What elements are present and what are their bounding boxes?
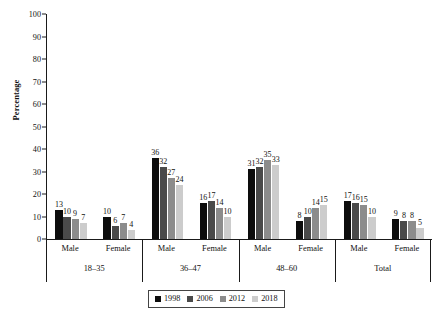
bar xyxy=(296,221,303,239)
bar xyxy=(392,219,399,239)
category-separator xyxy=(142,240,143,282)
legend-label: 2018 xyxy=(261,295,277,303)
bar xyxy=(176,185,183,239)
chart-legend: 1998200620122018 xyxy=(148,290,285,308)
y-axis-tick xyxy=(42,81,46,82)
y-axis-tick-label: 20 xyxy=(0,190,41,199)
legend-swatch-icon xyxy=(252,296,258,302)
y-axis-tick-label: 50 xyxy=(0,122,41,131)
category-sex-label: Male xyxy=(335,242,383,255)
y-axis-tick-label: 40 xyxy=(0,145,41,154)
bar xyxy=(128,230,135,239)
legend-item[interactable]: 2012 xyxy=(220,295,245,303)
legend-item[interactable]: 2006 xyxy=(187,295,212,303)
category-sex-label: Female xyxy=(94,242,142,255)
y-axis-tick xyxy=(42,171,46,172)
bar xyxy=(264,160,271,239)
y-axis-tick-label: 30 xyxy=(0,167,41,176)
y-axis-tick-label: 0 xyxy=(0,235,41,244)
bar xyxy=(160,167,167,239)
bar xyxy=(256,167,263,239)
bar xyxy=(400,221,407,239)
y-axis-tick xyxy=(42,59,46,60)
category-separator xyxy=(239,240,240,282)
category-sex-label: Female xyxy=(383,242,431,255)
bar xyxy=(168,178,175,239)
legend-label: 1998 xyxy=(164,295,180,303)
bar-value-label: 15 xyxy=(316,195,331,204)
bar xyxy=(344,201,351,239)
category-group-label: Total xyxy=(335,262,431,275)
bar xyxy=(63,217,70,240)
y-axis-tick-label: 70 xyxy=(0,77,41,86)
category-sex-label: Female xyxy=(287,242,335,255)
bar xyxy=(200,203,207,239)
y-axis-tick xyxy=(42,149,46,150)
bar-value-label: 4 xyxy=(124,220,139,229)
category-group-label: 48–60 xyxy=(239,262,335,275)
y-axis-tick xyxy=(42,104,46,105)
legend-swatch-icon xyxy=(220,296,226,302)
bar xyxy=(352,203,359,239)
bar xyxy=(304,217,311,240)
bar-value-label: 36 xyxy=(148,148,163,157)
y-axis-tick-label: 90 xyxy=(0,32,41,41)
bar-value-label: 5 xyxy=(412,218,427,227)
bar-chart: Percentage 0102030405060708090100 131097… xyxy=(0,0,444,321)
bar-value-label: 32 xyxy=(156,157,171,166)
bar xyxy=(80,223,87,239)
y-axis-tick-label: 100 xyxy=(0,10,41,19)
category-separator xyxy=(335,240,336,282)
legend-label: 2012 xyxy=(229,295,245,303)
y-axis-tick xyxy=(42,14,46,15)
category-separator xyxy=(430,240,431,282)
category-axis: MaleFemaleMaleFemaleMaleFemaleMaleFemale… xyxy=(46,240,432,282)
y-axis-tick xyxy=(42,216,46,217)
bar-value-label: 10 xyxy=(364,207,379,216)
plot-area: 1310971067436322724161714103132353381014… xyxy=(47,14,432,239)
bar xyxy=(416,228,423,239)
bar-value-label: 10 xyxy=(99,207,114,216)
y-axis-tick-label: 80 xyxy=(0,55,41,64)
bar-value-label: 10 xyxy=(220,207,235,216)
y-axis-tick-label: 10 xyxy=(0,212,41,221)
bar xyxy=(152,158,159,239)
bar xyxy=(312,208,319,240)
category-sex-label: Male xyxy=(239,242,287,255)
bar-value-label: 7 xyxy=(76,213,91,222)
y-axis-tick xyxy=(42,36,46,37)
y-axis-tick-label: 60 xyxy=(0,100,41,109)
y-axis-tick xyxy=(42,126,46,127)
category-group-label: 18–35 xyxy=(46,262,142,275)
legend-item[interactable]: 1998 xyxy=(155,295,180,303)
bar xyxy=(224,217,231,240)
bar xyxy=(248,169,255,239)
bar xyxy=(112,226,119,240)
bar xyxy=(368,217,375,240)
bar xyxy=(320,205,327,239)
category-separator xyxy=(46,240,47,282)
bar-value-label: 14 xyxy=(212,198,227,207)
category-sex-label: Female xyxy=(190,242,238,255)
legend-swatch-icon xyxy=(155,296,161,302)
bar-value-label: 24 xyxy=(172,175,187,184)
bar-value-label: 15 xyxy=(356,195,371,204)
legend-label: 2006 xyxy=(196,295,212,303)
legend-swatch-icon xyxy=(187,296,193,302)
category-sex-label: Male xyxy=(142,242,190,255)
bar xyxy=(272,165,279,239)
legend-item[interactable]: 2018 xyxy=(252,295,277,303)
category-sex-label: Male xyxy=(46,242,94,255)
bar-value-label: 33 xyxy=(268,155,283,164)
category-group-label: 36–47 xyxy=(142,262,238,275)
y-axis-tick xyxy=(42,194,46,195)
